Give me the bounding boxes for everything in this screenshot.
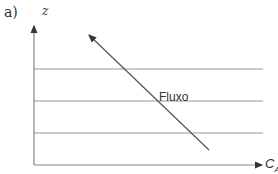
diagram-canvas bbox=[0, 0, 278, 174]
x-axis-label-sub: A bbox=[274, 165, 278, 174]
y-axis-label: z bbox=[42, 5, 48, 17]
panel-label: a) bbox=[4, 5, 18, 19]
flux-label: Fluxo bbox=[159, 91, 188, 103]
x-axis-label: CA bbox=[265, 157, 278, 174]
x-axis-label-main: C bbox=[265, 156, 274, 171]
